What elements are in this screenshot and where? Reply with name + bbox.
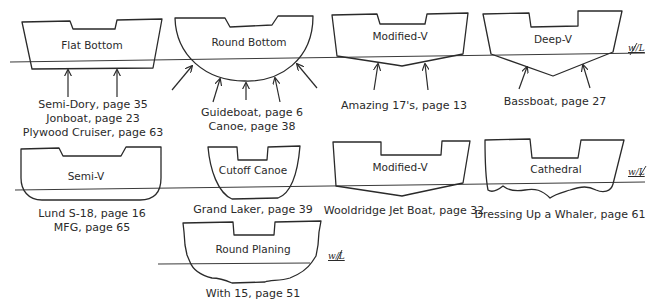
modified-v-hull-top <box>332 13 468 90</box>
caption-line: Bassboat, page 27 <box>504 95 606 109</box>
caption-modified-v-top: Amazing 17's, page 13 <box>341 99 467 113</box>
caption-modified-v-bottom: Wooldridge Jet Boat, page 32 <box>324 204 485 218</box>
caption-line: Lund S-18, page 16 <box>38 207 145 221</box>
caption-line: Dressing Up a Whaler, page 61 <box>474 208 645 222</box>
waterline-row2 <box>15 182 645 190</box>
caption-round-bottom: Guideboat, page 6 Canoe, page 38 <box>201 106 303 134</box>
caption-line: Wooldridge Jet Boat, page 32 <box>324 204 485 218</box>
caption-deep-v: Bassboat, page 27 <box>504 95 606 109</box>
hull-name-cathedral: Cathedral <box>530 164 581 175</box>
flat-bottom-hull <box>22 19 162 97</box>
deep-v-hull <box>483 11 622 89</box>
hull-name-round-planing: Round Planing <box>215 244 290 255</box>
caption-cutoff-canoe: Grand Laker, page 39 <box>193 203 312 217</box>
caption-line: With 15, page 51 <box>206 287 300 301</box>
waterline-row1 <box>10 53 645 62</box>
hull-name-flat-bottom: Flat Bottom <box>61 40 122 51</box>
waterline-label-row1: w/L <box>628 44 645 53</box>
caption-line: Guideboat, page 6 <box>201 106 303 120</box>
waterline-row3 <box>158 263 310 264</box>
caption-cathedral: Dressing Up a Whaler, page 61 <box>474 208 645 222</box>
caption-line: Plywood Cruiser, page 63 <box>23 126 163 140</box>
caption-line: Amazing 17's, page 13 <box>341 99 467 113</box>
hull-name-modified-v-bottom: Modified-V <box>372 162 427 173</box>
caption-flat-bottom: Semi-Dory, page 35 Jonboat, page 23 Plyw… <box>23 98 163 140</box>
caption-line: Jonboat, page 23 <box>23 112 163 126</box>
hull-name-semi-v: Semi-V <box>68 171 105 182</box>
waterline-label-row2: w/L <box>628 168 645 177</box>
caption-line: Canoe, page 38 <box>201 120 303 134</box>
hull-name-cutoff-canoe: Cutoff Canoe <box>219 165 287 176</box>
caption-line: Semi-Dory, page 35 <box>23 98 163 112</box>
hull-name-round-bottom: Round Bottom <box>211 37 286 48</box>
waterline-label-row3: w/L <box>328 252 345 261</box>
caption-round-planing: With 15, page 51 <box>206 287 300 301</box>
caption-line: MFG, page 65 <box>38 221 145 235</box>
caption-line: Grand Laker, page 39 <box>193 203 312 217</box>
hull-name-deep-v: Deep-V <box>534 34 572 45</box>
hull-name-modified-v-top: Modified-V <box>372 31 427 42</box>
caption-semi-v: Lund S-18, page 16 MFG, page 65 <box>38 207 145 235</box>
